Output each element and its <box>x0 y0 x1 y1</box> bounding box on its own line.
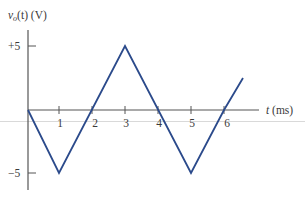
svg-text:6: 6 <box>224 117 230 129</box>
svg-text:2: 2 <box>92 117 98 129</box>
y-tick-label-minus5: −5 <box>8 167 20 179</box>
svg-text:1: 1 <box>57 117 63 129</box>
svg-text:5: 5 <box>189 117 195 129</box>
svg-text:3: 3 <box>123 117 129 129</box>
x-axis-label: t (ms) <box>266 104 293 117</box>
y-tick-label-plus5: +5 <box>8 40 20 52</box>
svg-text:4: 4 <box>156 117 162 129</box>
triangle-waveform-chart: vo(t) (V) +5 −5 1 2 3 4 5 6 t (ms) <box>0 0 305 200</box>
y-axis-label: vo(t) (V) <box>8 9 47 23</box>
